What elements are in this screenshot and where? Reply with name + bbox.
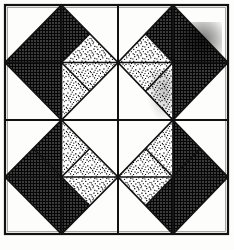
quilt-pattern-svg	[0, 0, 234, 250]
quilt-pattern-figure	[0, 0, 234, 250]
scan-smudge-top-right	[178, 22, 222, 68]
scan-smudge-center-right	[148, 70, 176, 120]
